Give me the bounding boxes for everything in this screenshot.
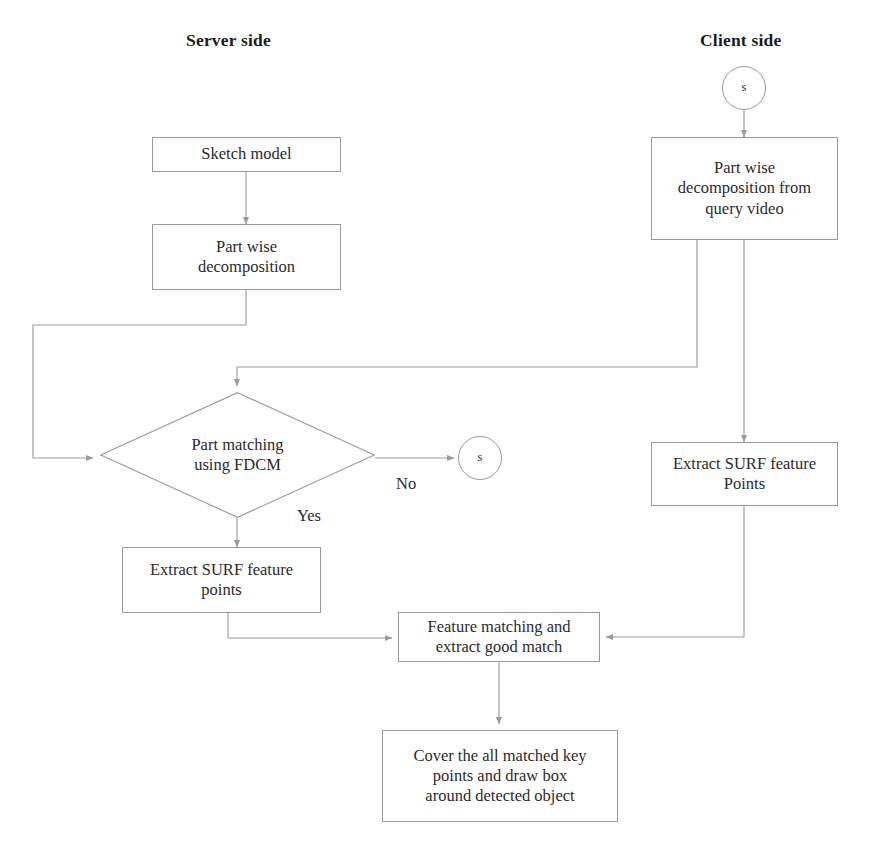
node-label: Sketch model xyxy=(195,144,297,164)
node-label: Part wise decomposition from query video xyxy=(672,158,817,218)
column-title-server: Server side xyxy=(186,30,271,51)
flowchart-canvas: Server side Client side s Sketch model P… xyxy=(0,0,869,850)
node-no-terminal[interactable]: s xyxy=(458,436,502,480)
node-label: Extract SURF feature points xyxy=(144,560,299,600)
node-feature-matching[interactable]: Feature matching and extract good match xyxy=(398,612,600,662)
node-part-wise-decomposition-query[interactable]: Part wise decomposition from query video xyxy=(651,137,838,240)
edge-label-no: No xyxy=(396,474,416,494)
node-extract-surf-server[interactable]: Extract SURF feature points xyxy=(122,547,321,613)
node-part-matching-decision[interactable]: Part matching using FDCM xyxy=(100,392,375,518)
node-label: Extract SURF feature Points xyxy=(667,454,822,494)
node-sketch-model[interactable]: Sketch model xyxy=(152,137,341,172)
column-title-client: Client side xyxy=(700,30,781,51)
node-label: Feature matching and extract good match xyxy=(422,617,577,657)
node-extract-surf-client[interactable]: Extract SURF feature Points xyxy=(651,442,838,506)
node-part-wise-decomposition[interactable]: Part wise decomposition xyxy=(152,224,341,290)
node-label: Part wise decomposition xyxy=(192,237,301,277)
edge-surf-server-to-feature-matching xyxy=(228,613,392,638)
node-label: Part matching using FDCM xyxy=(185,435,289,475)
edge-surf-client-to-feature-matching xyxy=(606,506,744,637)
node-client-start-terminal[interactable]: s xyxy=(722,66,766,110)
node-cover-matched[interactable]: Cover the all matched key points and dra… xyxy=(382,730,618,822)
node-label: s xyxy=(472,450,489,465)
node-label: s xyxy=(736,80,753,95)
node-label: Cover the all matched key points and dra… xyxy=(407,746,592,806)
